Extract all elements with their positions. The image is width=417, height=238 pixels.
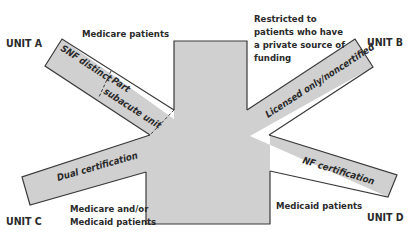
unit-c-caption-line-1: Medicare and/or [70,203,149,214]
unit-b-caption-line-2: patients who have [254,26,343,37]
unit-d-caption: Medicaid patients [276,200,362,211]
facility-diagram: UNIT A UNIT B UNIT C UNIT D Medicare pat… [0,0,417,238]
unit-a-label: UNIT A [6,37,43,49]
unit-d-label: UNIT D [367,211,404,223]
unit-c-label: UNIT C [6,215,42,227]
unit-a-caption: Medicare patients [82,28,169,39]
unit-c-caption-line-2: Medicaid patients [70,216,156,227]
unit-b-caption-line-4: funding [254,52,291,63]
unit-b-caption-line-3: a private source of [254,39,345,50]
unit-b-caption-line-1: Restricted to [254,13,317,24]
